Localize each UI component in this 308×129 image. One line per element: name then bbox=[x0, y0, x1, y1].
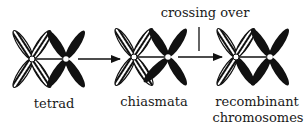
recombinant-group bbox=[214, 26, 292, 87]
recombinant-label-line2: chromosomes bbox=[212, 110, 303, 125]
recombinant-label-line1: recombinant bbox=[215, 94, 299, 109]
chiasmata-label: chiasmata bbox=[120, 94, 188, 109]
tetrad-group bbox=[10, 28, 88, 89]
crossing-over-label: crossing over bbox=[161, 5, 251, 20]
tetrad-label: tetrad bbox=[34, 96, 74, 111]
meiosis-crossing-over-diagram: crossing over tetrad chiasmata recombina… bbox=[0, 0, 308, 129]
